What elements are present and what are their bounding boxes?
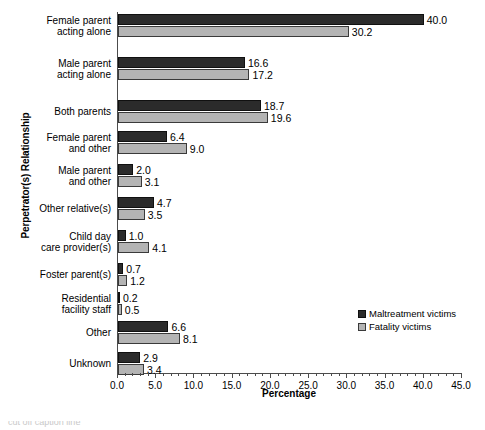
bar-value-label: 17.2 [252,69,272,81]
x-tick-major [346,373,347,378]
x-tick-minor [369,373,370,376]
bar-value-label: 19.6 [271,112,291,124]
x-tick-minor [300,373,301,376]
bar-fatality: 0.5 [118,304,122,315]
x-tick-major [461,373,462,378]
x-tick-minor [446,373,447,376]
bar-value-label: 4.7 [157,197,172,209]
category-label: Female parent acting alone [0,15,111,38]
bar-value-label: 2.0 [136,164,151,176]
x-tick-minor [354,373,355,376]
x-tick-minor [339,373,340,376]
bar-maltreatment: 4.7 [118,197,154,208]
bar-maltreatment: 0.7 [118,263,123,274]
x-tick-minor [278,373,279,376]
x-tick-minor [453,373,454,376]
x-tick-minor [201,373,202,376]
x-tick-minor [377,373,378,376]
category-label: Foster parent(s) [0,269,111,281]
bar-value-label: 16.6 [248,57,268,69]
bar-maltreatment: 0.2 [118,292,120,303]
bar-fatality: 3.1 [118,176,142,187]
category-label: Unknown [0,358,111,370]
bar-fatality: 4.1 [118,242,149,253]
bar-maltreatment: 6.6 [118,321,168,332]
bar-fatality: 19.6 [118,112,268,123]
x-axis-spine [117,373,462,374]
bar-value-label: 8.1 [183,333,198,345]
x-tick-minor [216,373,217,376]
bar-value-label: 30.2 [352,26,372,38]
x-tick-minor [392,373,393,376]
cut-off-caption: cut off caption line [0,421,485,430]
category-label: Male parent and other [0,165,111,188]
bar-value-label: 6.6 [171,321,186,333]
x-tick-minor [407,373,408,376]
bar-maltreatment: 2.0 [118,164,133,175]
x-tick-minor [148,373,149,376]
x-tick-minor [171,373,172,376]
caption-text: cut off caption line [8,421,80,427]
bar-value-label: 18.7 [264,100,284,112]
x-tick-major [270,373,271,378]
x-tick-minor [163,373,164,376]
legend-entry: Fatality victims [358,321,456,333]
x-tick-minor [262,373,263,376]
x-tick-minor [362,373,363,376]
bar-maltreatment: 40.0 [118,14,424,25]
x-tick-minor [293,373,294,376]
bar-fatality: 3.5 [118,209,145,220]
x-axis-title: Percentage [117,388,461,399]
bar-value-label: 1.2 [130,275,145,287]
x-tick-minor [224,373,225,376]
bar-maltreatment: 18.7 [118,100,261,111]
x-tick-minor [140,373,141,376]
x-tick-minor [125,373,126,376]
bar-value-label: 9.0 [190,143,205,155]
x-tick-major [155,373,156,378]
x-tick-major [423,373,424,378]
x-tick-minor [255,373,256,376]
chart-legend: Maltreatment victimsFatality victims [358,308,456,334]
x-tick-minor [239,373,240,376]
bar-maltreatment: 1.0 [118,230,126,241]
bar-chart-figure: Perpetrator(s) Relationship Female paren… [0,0,485,430]
bar-fatality: 8.1 [118,333,180,344]
category-label: Child day care provider(s) [0,231,111,254]
x-tick-major [232,373,233,378]
bar-fatality: 17.2 [118,69,249,80]
x-tick-minor [316,373,317,376]
x-tick-minor [247,373,248,376]
x-tick-minor [209,373,210,376]
legend-label: Fatality victims [369,321,431,333]
x-tick-major [308,373,309,378]
x-tick-major [385,373,386,378]
x-tick-minor [331,373,332,376]
legend-swatch-dark [358,310,366,318]
bar-value-label: 0.2 [123,292,138,304]
bar-value-label: 1.0 [129,230,144,242]
category-label: Both parents [0,106,111,118]
category-label: Residential facility staff [0,293,111,316]
bar-maltreatment: 16.6 [118,57,245,68]
category-label: Other [0,327,111,339]
bar-fatality: 1.2 [118,275,127,286]
x-tick-minor [400,373,401,376]
bar-value-label: 0.5 [125,304,140,316]
bar-fatality: 9.0 [118,143,187,154]
category-label: Female parent and other [0,132,111,155]
bar-value-label: 4.1 [152,242,167,254]
legend-swatch-light [358,323,366,331]
x-tick-minor [438,373,439,376]
x-tick-minor [430,373,431,376]
x-tick-minor [186,373,187,376]
x-tick-major [193,373,194,378]
category-label: Other relative(s) [0,203,111,215]
category-label: Male parent acting alone [0,58,111,81]
bar-value-label: 3.5 [148,209,163,221]
bar-maltreatment: 2.9 [118,352,140,363]
x-tick-minor [415,373,416,376]
bar-value-label: 0.7 [126,263,141,275]
bar-value-label: 6.4 [170,131,185,143]
x-tick-minor [178,373,179,376]
